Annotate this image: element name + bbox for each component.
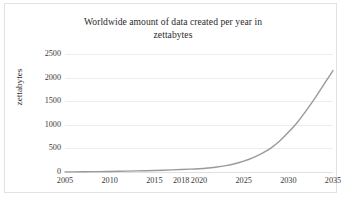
- plot-area: [65, 54, 333, 172]
- y-axis-tick-label: 1000: [27, 121, 61, 129]
- series-path: [65, 71, 333, 172]
- x-axis-tick-label: 2035: [313, 176, 343, 186]
- chart-title-line-1: Worldwide amount of data created per yea…: [84, 16, 262, 27]
- y-axis-tick-label: 2500: [27, 50, 61, 58]
- x-axis-tick-labels: 20052010201520182020202520302035: [65, 176, 333, 190]
- y-axis-tick-label: 2000: [27, 74, 61, 82]
- x-axis-tick-label: 2020: [179, 176, 219, 186]
- x-axis-tick-label: 2025: [224, 176, 264, 186]
- chart-container: Worldwide amount of data created per yea…: [4, 3, 337, 193]
- y-axis-tick-label: 500: [27, 144, 61, 152]
- x-axis-tick-label: 2010: [90, 176, 130, 186]
- y-axis-tick-label: 0: [27, 168, 61, 176]
- data-series-line: [65, 54, 333, 172]
- chart-title: Worldwide amount of data created per yea…: [29, 15, 317, 41]
- chart-title-line-2: zettabytes: [154, 29, 193, 40]
- y-axis-tick-label: 1500: [27, 97, 61, 105]
- y-axis-tick-labels: 05001000150020002500: [25, 54, 61, 172]
- x-axis-tick-label: 2030: [268, 176, 308, 186]
- x-axis-tick-label: 2005: [45, 176, 85, 186]
- y-axis-title: zettabytes: [14, 51, 24, 123]
